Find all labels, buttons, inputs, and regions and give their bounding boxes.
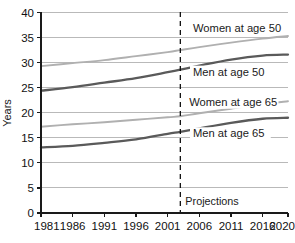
y-axis-ticks: 0510152025303540 xyxy=(21,7,41,220)
series-label-2: Women at age 65 xyxy=(189,96,277,108)
chart-canvas: 0510152025303540 19811986199119962001200… xyxy=(0,0,295,243)
y-tick-label-20: 20 xyxy=(21,107,34,119)
y-tick-label-15: 15 xyxy=(21,132,34,144)
x-axis-ticks: 198119861991199620012006201120162020 xyxy=(34,213,295,232)
series-label-3: Men at age 65 xyxy=(193,127,265,139)
projections-label-group: Projections xyxy=(185,195,239,207)
projections-label: Projections xyxy=(185,195,239,207)
y-tick-label-10: 10 xyxy=(21,157,34,169)
x-tick-label-1991: 1991 xyxy=(92,220,118,232)
x-tick-label-2011: 2011 xyxy=(219,220,244,232)
y-tick-label-5: 5 xyxy=(28,182,34,194)
y-axis-title: Years xyxy=(1,99,13,127)
x-tick-label-1996: 1996 xyxy=(123,220,149,232)
life-expectancy-line-chart: 0510152025303540 19811986199119962001200… xyxy=(0,0,295,243)
series-line-0 xyxy=(41,36,288,66)
y-tick-label-30: 30 xyxy=(21,57,34,69)
x-tick-label-1981: 1981 xyxy=(34,220,60,232)
y-tick-label-35: 35 xyxy=(21,32,34,44)
y-tick-label-0: 0 xyxy=(28,207,34,219)
y-tick-label-25: 25 xyxy=(21,82,34,94)
series-label-1: Men at age 50 xyxy=(193,66,265,78)
series-label-0: Women at age 50 xyxy=(193,22,281,34)
x-tick-label-2006: 2006 xyxy=(187,220,213,232)
x-tick-label-2001: 2001 xyxy=(155,220,181,232)
x-tick-label-2020: 2020 xyxy=(269,220,295,232)
y-tick-label-40: 40 xyxy=(21,7,34,19)
x-tick-label-1986: 1986 xyxy=(60,220,86,232)
